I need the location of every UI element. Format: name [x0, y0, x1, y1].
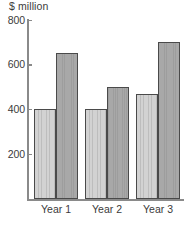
bar-year-2-series-2	[107, 87, 129, 199]
y-tick-mark-800	[28, 20, 32, 21]
y-tick-label-200: 200	[0, 148, 25, 160]
bar-year-1-series-1	[34, 109, 56, 199]
x-axis-line	[27, 199, 184, 201]
y-tick-label-400: 400	[0, 103, 25, 115]
y-tick-label-600: 600	[0, 58, 25, 70]
y-tick-mark-200	[28, 154, 32, 155]
y-tick-mark-600	[28, 64, 32, 65]
y-tick-label-800: 800	[0, 14, 25, 26]
y-tick-mark-400	[28, 109, 32, 110]
plot-area: 800 600 400 200 Year 1 Year 2 Year 3	[0, 0, 191, 235]
x-tick-label-year-3: Year 3	[128, 203, 188, 215]
bar-year-3-series-1	[136, 94, 158, 199]
bar-year-1-series-2	[56, 53, 78, 199]
bar-year-2-series-1	[85, 109, 107, 199]
bar-chart: $ million 800 600 400 200	[0, 0, 191, 235]
bar-year-3-series-2	[158, 42, 180, 199]
